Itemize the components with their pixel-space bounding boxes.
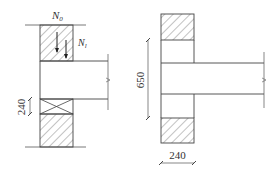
bottom-wall-hatched bbox=[161, 118, 194, 143]
label-n0: N0 bbox=[51, 9, 63, 23]
left-elevation: N0 Nl 240 bbox=[15, 9, 110, 147]
dim-240-left: 240 bbox=[15, 98, 27, 115]
lower-wall-hatched bbox=[40, 114, 73, 147]
right-section: 650 240 bbox=[134, 14, 266, 165]
structural-drawing: N0 Nl 240 650 240 bbox=[0, 0, 273, 182]
dim-650: 650 bbox=[134, 71, 146, 88]
dim-240-right: 240 bbox=[169, 149, 186, 161]
top-wall-hatched bbox=[161, 14, 194, 40]
label-nl: Nl bbox=[77, 37, 87, 50]
